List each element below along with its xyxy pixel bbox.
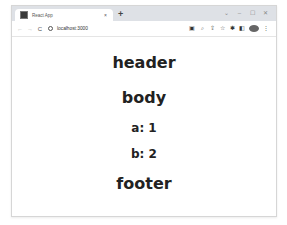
browser-toolbar: ← → C localhost:3000 ▣ ⌕ ⇪ ☆ ✱ ◧ ⋮ (12, 21, 276, 37)
item-b: b: 2 (12, 147, 276, 161)
forward-button[interactable]: → (25, 26, 35, 32)
reload-button[interactable]: C (35, 26, 45, 32)
window-controls: ⌄ – ☐ ✕ (220, 8, 272, 18)
tab-search-icon[interactable]: ⌄ (220, 8, 233, 18)
browser-window: React App × + ⌄ – ☐ ✕ ← → C localhost:30… (11, 5, 277, 217)
header-heading: header (12, 54, 276, 72)
page-content: header body a: 1 b: 2 footer (12, 37, 276, 216)
footer-heading: footer (12, 175, 276, 193)
bookmark-star-icon[interactable]: ☆ (217, 26, 227, 32)
share-icon[interactable]: ⇪ (207, 26, 217, 32)
item-a: a: 1 (12, 121, 276, 135)
maximize-icon[interactable]: ☐ (246, 8, 259, 18)
body-heading: body (12, 89, 276, 107)
zoom-icon[interactable]: ⌕ (197, 26, 207, 32)
extensions-icon[interactable]: ✱ (227, 26, 237, 32)
tab-close-icon[interactable]: × (104, 13, 107, 18)
side-panel-icon[interactable]: ◧ (237, 26, 247, 32)
url-text[interactable]: localhost:3000 (57, 26, 88, 31)
translate-icon[interactable]: ▣ (187, 26, 197, 32)
minimize-icon[interactable]: – (233, 8, 246, 18)
address-bar[interactable]: localhost:3000 (48, 23, 187, 34)
favicon-icon (20, 11, 28, 19)
profile-avatar[interactable] (249, 25, 259, 32)
site-info-icon[interactable] (48, 26, 53, 31)
new-tab-button[interactable]: + (118, 9, 123, 19)
back-button[interactable]: ← (15, 26, 25, 32)
tab-react-app[interactable]: React App × (15, 9, 113, 21)
close-window-icon[interactable]: ✕ (259, 8, 272, 18)
menu-icon[interactable]: ⋮ (261, 26, 271, 32)
tab-strip: React App × + ⌄ – ☐ ✕ (12, 6, 276, 21)
tab-title: React App (32, 13, 104, 18)
toolbar-icons: ▣ ⌕ ⇪ ☆ ✱ ◧ ⋮ (187, 25, 271, 32)
